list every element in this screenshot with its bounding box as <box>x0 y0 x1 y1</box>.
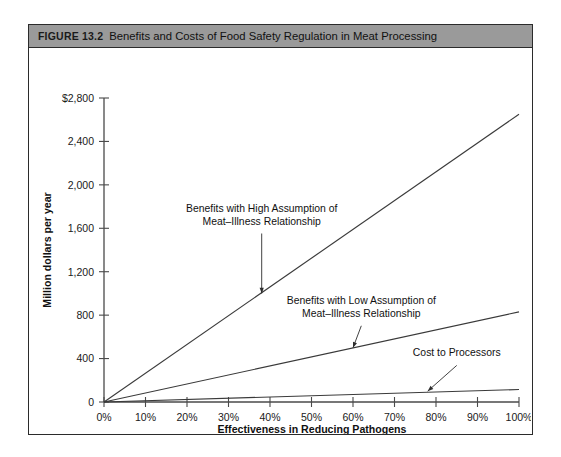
x-tick-label: 20% <box>176 411 197 423</box>
figure-number-label: FIGURE 13.2 <box>38 30 103 42</box>
chart-plot-area: 04008001,2001,6002,0002,400$2,800 0%10%2… <box>29 48 532 434</box>
chart-svg: 04008001,2001,6002,0002,400$2,800 0%10%2… <box>29 48 531 434</box>
chart-series-lines <box>104 114 519 402</box>
x-tick-label: 50% <box>301 411 322 423</box>
annot-cost-text: Cost to Processors <box>413 347 501 358</box>
annot-cost-leader <box>428 365 457 391</box>
y-tick-label: $2,800 <box>62 92 94 104</box>
x-axis-ticks: 0%10%20%30%40%50%60%70%80%90%100% <box>96 397 531 423</box>
x-tick-label: 90% <box>467 411 488 423</box>
y-tick-label: 0 <box>88 396 94 408</box>
x-tick-label: 60% <box>342 411 363 423</box>
figure-titlebar: FIGURE 13.2 Benefits and Costs of Food S… <box>29 25 532 48</box>
annot-low-benefits-text: Benefits with Low Assumption ofMeat–Illn… <box>287 295 436 319</box>
figure-screenshot: FIGURE 13.2 Benefits and Costs of Food S… <box>0 0 561 457</box>
x-axis-title: Effectiveness in Reducing Pathogens <box>218 423 407 434</box>
y-axis-title: Million dollars per year <box>41 192 53 307</box>
y-tick-label: 2,400 <box>68 135 94 147</box>
annot-high-benefits-text: Benefits with High Assumption ofMeat–Ill… <box>186 203 337 227</box>
y-tick-label: 1,200 <box>68 266 94 278</box>
x-tick-label: 100% <box>506 411 531 423</box>
annot-low-benefits: Benefits with Low Assumption ofMeat–Illn… <box>287 295 436 347</box>
x-tick-label: 10% <box>135 411 156 423</box>
y-tick-label: 800 <box>76 309 94 321</box>
y-axis-ticks: 04008001,2001,6002,0002,400$2,800 <box>62 92 109 408</box>
x-tick-label: 70% <box>384 411 405 423</box>
y-tick-label: 1,600 <box>68 222 94 234</box>
series-line-0 <box>104 114 519 402</box>
y-tick-label: 2,000 <box>68 179 94 191</box>
figure-title-text: Benefits and Costs of Food Safety Regula… <box>109 30 437 42</box>
x-tick-label: 30% <box>218 411 239 423</box>
y-tick-label: 400 <box>76 352 94 364</box>
annot-cost: Cost to Processors <box>413 347 501 391</box>
x-tick-label: 0% <box>96 411 111 423</box>
x-tick-label: 80% <box>425 411 446 423</box>
annot-high-benefits-arrowhead <box>260 288 264 294</box>
figure-frame: FIGURE 13.2 Benefits and Costs of Food S… <box>28 24 533 435</box>
annot-high-benefits: Benefits with High Assumption ofMeat–Ill… <box>186 203 337 293</box>
x-tick-label: 40% <box>259 411 280 423</box>
chart-annotations: Benefits with High Assumption ofMeat–Ill… <box>186 203 501 391</box>
